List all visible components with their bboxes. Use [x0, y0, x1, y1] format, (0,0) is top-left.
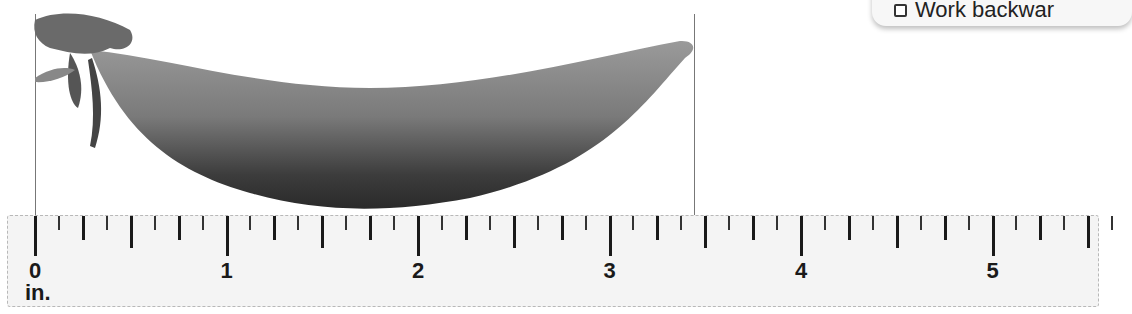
ruler-label: 1	[220, 258, 232, 284]
ruler-tick	[561, 216, 564, 240]
ruler-tick	[752, 216, 755, 240]
ruler-tick	[489, 216, 491, 230]
ruler-tick	[656, 216, 659, 240]
ruler-tick	[82, 216, 85, 240]
ruler-tick	[393, 216, 395, 230]
ruler-tick	[896, 216, 899, 248]
ruler-tick	[920, 216, 922, 230]
ruler-tick	[34, 216, 37, 256]
ruler-tick	[369, 216, 372, 240]
ruler-label: 2	[412, 258, 424, 284]
hint-popup: Work backwar	[872, 0, 1132, 26]
ruler-tick	[1063, 216, 1065, 230]
ruler-tick	[1087, 216, 1090, 248]
ruler-tick	[465, 216, 468, 240]
ruler-label: 3	[603, 258, 615, 284]
ruler-tick	[321, 216, 324, 248]
ruler-tick	[704, 216, 707, 248]
ruler-tick	[1111, 216, 1113, 230]
ruler-tick	[1015, 216, 1017, 230]
ruler-tick	[728, 216, 730, 230]
pea-pod-image	[30, 8, 710, 218]
ruler-tick	[106, 216, 108, 230]
ruler-tick	[992, 216, 995, 256]
ruler-tick	[848, 216, 851, 240]
ruler-tick	[273, 216, 276, 240]
ruler-tick	[1039, 216, 1042, 240]
ruler-tick	[632, 216, 634, 230]
ruler-tick	[249, 216, 251, 230]
ruler-label: 5	[986, 258, 998, 284]
ruler-tick	[226, 216, 229, 256]
ruler-tick	[345, 216, 347, 230]
ruler-tick	[776, 216, 778, 230]
ruler-tick	[968, 216, 970, 230]
work-backwards-option[interactable]: Work backwar	[894, 0, 1054, 23]
ruler-tick	[537, 216, 539, 230]
ruler-tick	[800, 216, 803, 256]
ruler-tick	[58, 216, 60, 230]
ruler-tick	[513, 216, 516, 248]
ruler-tick	[680, 216, 682, 230]
ruler-tick	[609, 216, 612, 256]
ruler: in. 012345	[7, 215, 1099, 307]
ruler-tick	[178, 216, 181, 240]
ruler-tick	[585, 216, 587, 230]
checkbox-icon[interactable]	[894, 4, 907, 17]
ruler-tick	[441, 216, 443, 230]
ruler-label: 0	[29, 258, 41, 284]
ruler-tick	[154, 216, 156, 230]
ruler-label: 4	[795, 258, 807, 284]
ruler-tick	[944, 216, 947, 240]
ruler-tick	[417, 216, 420, 256]
option-label: Work backwar	[915, 0, 1054, 23]
ruler-tick	[824, 216, 826, 230]
ruler-tick	[297, 216, 299, 230]
ruler-tick	[202, 216, 204, 230]
ruler-tick	[130, 216, 133, 248]
ruler-tick	[872, 216, 874, 230]
